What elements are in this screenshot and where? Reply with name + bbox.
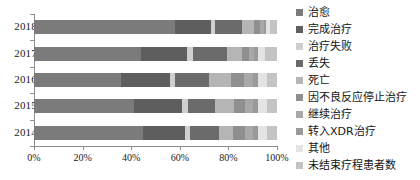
bar-segment	[258, 99, 268, 113]
y-axis-label-2017: 2017	[3, 47, 37, 59]
legend-swatch-icon	[296, 145, 303, 152]
bar-segment	[258, 73, 268, 87]
bar-segment	[219, 126, 234, 140]
legend-swatch-icon	[296, 26, 303, 33]
x-axis-tick	[277, 146, 278, 150]
bar-2014	[34, 126, 277, 140]
chart-root: 20182017201620152014 0%20%40%60%80%100% …	[0, 0, 420, 180]
legend-swatch-icon	[296, 94, 303, 101]
bar-segment	[265, 47, 277, 61]
x-axis-tick-label-20: 20%	[73, 152, 91, 163]
plot-area: 20182017201620152014 0%20%40%60%80%100%	[0, 0, 290, 180]
bar-segment	[242, 47, 249, 61]
legend-label: 其他	[308, 143, 330, 154]
bar-segment	[227, 47, 242, 61]
bar-segment	[245, 99, 252, 113]
bar-segment	[34, 99, 134, 113]
y-axis-label-2015: 2015	[3, 99, 37, 111]
legend-label: 丢失	[308, 58, 330, 69]
legend-item-3[interactable]: 丢失	[296, 55, 420, 72]
bar-segment	[34, 47, 141, 61]
y-axis-label-2018: 2018	[3, 20, 37, 32]
y-axis-tick	[30, 40, 34, 41]
bar-segment	[231, 73, 244, 87]
bar-2017	[34, 47, 277, 61]
legend-swatch-icon	[296, 60, 303, 67]
bar-segment	[242, 20, 254, 34]
bar-segment	[267, 73, 277, 87]
x-axis-tick	[34, 146, 35, 150]
x-axis-tick	[180, 146, 181, 150]
bar-segment	[270, 20, 277, 34]
x-axis-tick-label-100: 100%	[265, 152, 288, 163]
bar-2016	[34, 73, 277, 87]
y-axis-tick	[30, 93, 34, 94]
bar-segment	[258, 47, 265, 61]
legend-label: 转入XDR治疗	[308, 126, 376, 137]
legend-label: 完成治疗	[308, 24, 352, 35]
legend-item-4[interactable]: 死亡	[296, 72, 420, 89]
bar-segment	[215, 99, 234, 113]
y-axis-label-2016: 2016	[3, 73, 37, 85]
legend-swatch-icon	[296, 162, 303, 169]
bar-segment	[215, 20, 242, 34]
bar-2018	[34, 20, 277, 34]
bar-segment	[34, 126, 143, 140]
legend-label: 死亡	[308, 75, 330, 86]
x-axis-tick-label-60: 60%	[171, 152, 189, 163]
legend-item-6[interactable]: 继续治疗	[296, 106, 420, 123]
legend-item-1[interactable]: 完成治疗	[296, 21, 420, 38]
bar-segment	[233, 126, 245, 140]
x-axis-tick-label-0: 0%	[27, 152, 40, 163]
legend-item-9[interactable]: 未结束疗程患者数	[296, 157, 420, 174]
x-axis-line	[34, 146, 277, 147]
legend-label: 治愈	[308, 7, 330, 18]
legend-label: 继续治疗	[308, 109, 352, 120]
bar-segment	[258, 126, 268, 140]
y-axis-tick	[30, 120, 34, 121]
legend-swatch-icon	[296, 128, 303, 135]
legend-swatch-icon	[296, 77, 303, 84]
bar-segment	[34, 73, 121, 87]
legend-item-2[interactable]: 治疗失败	[296, 38, 420, 55]
x-axis-tick	[131, 146, 132, 150]
x-axis-tick	[83, 146, 84, 150]
x-axis-tick-label-80: 80%	[219, 152, 237, 163]
bar-segment	[34, 20, 175, 34]
bar-segment	[245, 126, 252, 140]
bar-segment	[193, 47, 227, 61]
bar-segment	[175, 73, 209, 87]
chart-legend: 治愈完成治疗治疗失败丢失死亡因不良反应停止治疗继续治疗转入XDR治疗其他未结束疗…	[296, 4, 420, 174]
legend-item-7[interactable]: 转入XDR治疗	[296, 123, 420, 140]
bar-segment	[267, 126, 277, 140]
bar-segment	[267, 99, 277, 113]
legend-item-5[interactable]: 因不良反应停止治疗	[296, 89, 420, 106]
bar-segment	[190, 126, 219, 140]
legend-label: 治疗失败	[308, 41, 352, 52]
legend-item-8[interactable]: 其他	[296, 140, 420, 157]
bar-segment	[143, 126, 184, 140]
bar-segment	[121, 73, 170, 87]
x-axis-tick	[228, 146, 229, 150]
bar-segment	[134, 99, 183, 113]
y-axis-tick	[30, 67, 34, 68]
legend-item-0[interactable]: 治愈	[296, 4, 420, 21]
bar-segment	[175, 20, 211, 34]
y-axis-label-2014: 2014	[3, 126, 37, 138]
x-axis-tick-label-40: 40%	[122, 152, 140, 163]
legend-swatch-icon	[296, 43, 303, 50]
bar-segment	[188, 99, 215, 113]
legend-swatch-icon	[296, 111, 303, 118]
legend-label: 未结束疗程患者数	[308, 160, 396, 171]
legend-swatch-icon	[296, 9, 303, 16]
bar-segment	[244, 73, 253, 87]
bar-segment	[234, 99, 245, 113]
y-axis-tick	[30, 14, 34, 15]
bar-segment	[209, 73, 231, 87]
legend-label: 因不良反应停止治疗	[308, 92, 407, 103]
bar-2015	[34, 99, 277, 113]
bar-segment	[141, 47, 187, 61]
